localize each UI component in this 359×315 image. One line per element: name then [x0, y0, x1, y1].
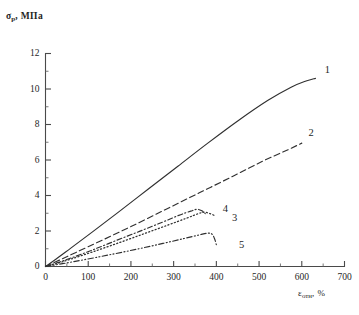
y-tick-label: 4: [35, 190, 40, 200]
x-tick-label: 600: [295, 272, 310, 282]
y-tick-label: 0: [35, 261, 40, 271]
curve-label-2: 2: [309, 127, 314, 138]
curve-label-5: 5: [239, 239, 244, 250]
x-tick-label: 400: [209, 272, 224, 282]
axis-group: [46, 54, 345, 267]
curve-label-group: 12345: [223, 64, 330, 251]
x-tick-label: 500: [252, 272, 267, 282]
tick-label-group: 0246810120100200300400500600700: [30, 48, 352, 282]
x-tick-label: 0: [43, 272, 48, 282]
y-tick-label: 8: [35, 119, 40, 129]
curve-group: [46, 78, 316, 266]
figure-container: σp, МПа εотн, % 024681012010020030040050…: [0, 0, 359, 315]
x-tick-label: 300: [167, 272, 182, 282]
y-tick-label: 2: [35, 226, 40, 236]
plot-canvas: 0246810120100200300400500600700 12345: [0, 0, 359, 315]
x-tick-label: 700: [337, 272, 352, 282]
y-tick-label: 10: [30, 84, 40, 94]
x-tick-label: 200: [124, 272, 139, 282]
x-tick-label: 100: [81, 272, 96, 282]
tick-group: [46, 54, 345, 267]
curve-1: [46, 78, 316, 266]
y-tick-label: 12: [30, 48, 40, 58]
curve-2: [46, 143, 302, 266]
curve-label-1: 1: [325, 64, 330, 75]
curve-4: [46, 209, 206, 266]
y-tick-label: 6: [35, 155, 40, 165]
curve-label-3: 3: [232, 212, 237, 223]
curve-label-4: 4: [223, 203, 229, 214]
